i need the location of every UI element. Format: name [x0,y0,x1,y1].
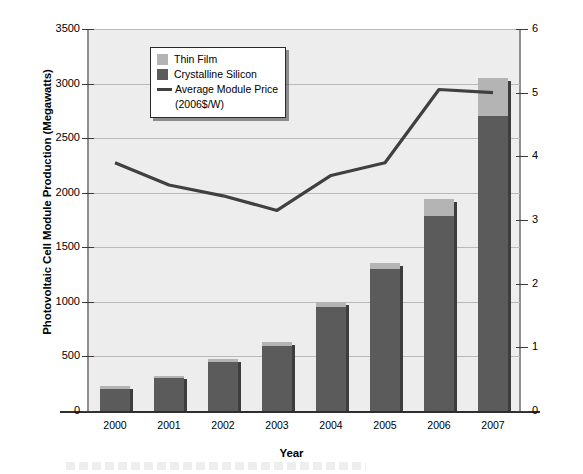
price-line-series [0,0,583,474]
left-tick-label: 3500 [34,22,80,34]
right-tick-label: 4 [532,149,572,161]
left-axis-title: Photovoltaic Cell Module Production (Meg… [41,37,53,367]
right-tick-mark [516,29,528,30]
legend-item-thin-film: Thin Film [157,53,279,66]
right-tick-label: 1 [532,340,572,352]
left-tick-mark [82,247,94,248]
cropped-caption-remnant [66,462,366,470]
x-tick-label-2003: 2003 [250,419,304,431]
legend-label-crystalline-silicon: Crystalline Silicon [174,68,257,81]
right-tick-mark [516,347,528,348]
legend-label-average-module-price: Average Module Price [175,83,278,96]
right-tick-label: 5 [532,86,572,98]
x-tick-label-2001: 2001 [142,419,196,431]
x-tick-label-2002: 2002 [196,419,250,431]
right-tick-mark [516,411,528,412]
right-tick-mark [516,284,528,285]
crystalline-silicon-swatch-icon [157,69,168,80]
chart-container: 3500300025002000150010005000 6543210 200… [0,0,583,474]
left-tick-mark [82,193,94,194]
thin-film-swatch-icon [157,54,168,65]
legend-item-average-module-price: Average Module Price [157,83,279,96]
left-tick-mark [82,29,94,30]
left-tick-mark [82,411,94,412]
x-axis-title: Year [0,447,583,459]
x-tick-label-2006: 2006 [412,419,466,431]
left-tick-mark [82,356,94,357]
x-tick-label-2000: 2000 [88,419,142,431]
right-tick-label: 2 [532,277,572,289]
left-tick-mark [82,84,94,85]
right-tick-label: 6 [532,22,572,34]
price-line-swatch-icon [157,88,172,91]
right-tick-label: 0 [532,404,572,416]
x-tick-label-2004: 2004 [304,419,358,431]
chart-legend: Thin Film Crystalline Silicon Average Mo… [150,47,286,118]
right-tick-label: 3 [532,213,572,225]
x-tick-label-2007: 2007 [466,419,520,431]
legend-label-thin-film: Thin Film [174,53,217,66]
right-tick-mark [516,156,528,157]
left-tick-mark [82,302,94,303]
left-tick-label: 0 [34,404,80,416]
x-tick-label-2005: 2005 [358,419,412,431]
legend-label-price-units: (2006$/W) [157,98,279,111]
right-tick-mark [516,220,528,221]
legend-item-crystalline-silicon: Crystalline Silicon [157,68,279,81]
left-tick-mark [82,138,94,139]
right-tick-mark [516,93,528,94]
